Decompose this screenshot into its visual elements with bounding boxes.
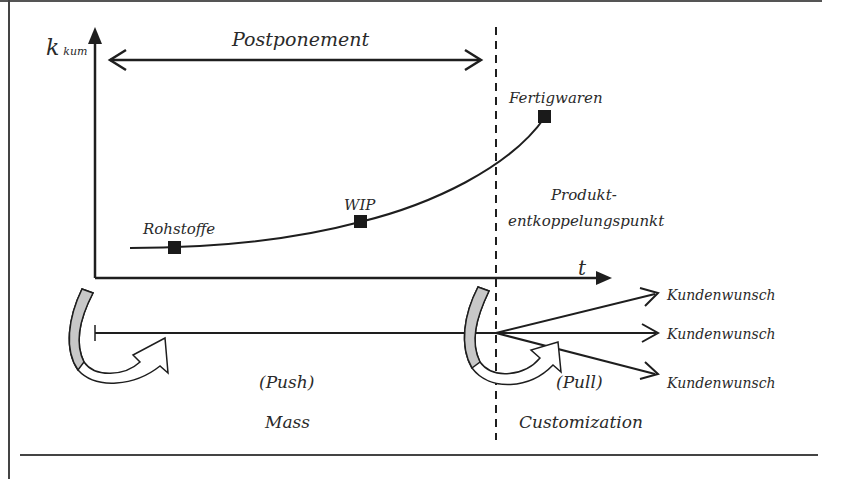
curved-arrow-push-icon xyxy=(69,289,168,383)
customization-label: Customization xyxy=(519,412,643,432)
marker-wip xyxy=(354,215,367,228)
y-axis-arrowhead-icon xyxy=(88,27,102,44)
point-label-fertigwaren: Fertigwaren xyxy=(508,89,603,107)
push-timeline xyxy=(95,325,496,341)
marker-rohstoffe xyxy=(168,241,181,254)
x-axis-arrowhead-icon xyxy=(596,271,612,285)
y-axis xyxy=(88,27,102,278)
push-label: (Push) xyxy=(259,372,314,392)
decoupling-label-line2: entkoppelungspunkt xyxy=(508,212,665,230)
mass-label: Mass xyxy=(264,412,310,432)
customer-wish-label-2: Kundenwunsch xyxy=(666,326,776,342)
customer-wish-arrows xyxy=(496,288,658,379)
point-label-rohstoffe: Rohstoffe xyxy=(142,220,215,238)
postponement-label: Postponement xyxy=(231,28,369,50)
x-axis-label: t xyxy=(578,256,587,280)
x-axis xyxy=(95,271,612,285)
customer-wish-label-1: Kundenwunsch xyxy=(666,287,776,303)
marker-fertigwaren xyxy=(538,110,551,123)
y-axis-label: kkum xyxy=(46,35,88,60)
decoupling-label-line1: Produkt- xyxy=(550,186,617,204)
postponement-diagram: kkum t Postponement Rohstoffe WIP Fertig… xyxy=(0,0,854,479)
postponement-arrow xyxy=(110,50,481,70)
curved-arrow-pull-icon xyxy=(464,287,561,385)
customer-wish-label-3: Kundenwunsch xyxy=(666,375,776,391)
pull-label: (Pull) xyxy=(556,372,603,392)
point-label-wip: WIP xyxy=(344,196,376,214)
